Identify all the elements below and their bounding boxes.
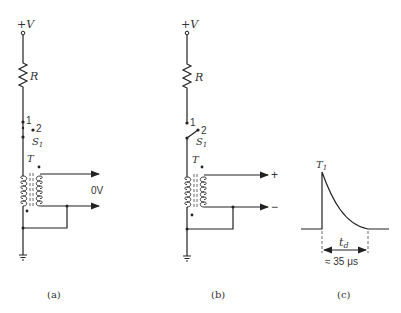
polarity-dot-a <box>38 166 41 169</box>
output-label-a: 0V <box>91 185 104 196</box>
switch-contact-2-a <box>31 128 34 131</box>
transformer-a <box>21 173 43 208</box>
transformer-label-b: T <box>192 154 200 165</box>
output-minus-label-b: − <box>271 200 278 214</box>
switch-pos1-label-b: 1 <box>190 117 196 128</box>
resistor-label-a: R <box>29 70 38 83</box>
supply-label-a: +V <box>17 18 35 31</box>
resistor-b <box>183 35 191 123</box>
panel-a: +V R 1 2 S1 T 0V (a) <box>17 18 104 300</box>
supply-terminal-a <box>21 31 25 35</box>
transformer-b <box>185 174 207 209</box>
caption-a: (a) <box>47 289 61 300</box>
panel-c: T1 td ≈ 35 μs (c) <box>301 159 389 300</box>
resistor-a <box>19 35 27 122</box>
pulse-waveform <box>301 172 389 229</box>
ground-icon-b <box>183 256 191 261</box>
supply-label-b: +V <box>181 18 199 31</box>
switch-pos2-label-a: 2 <box>36 123 42 134</box>
pulse-peak-label: T1 <box>316 159 327 172</box>
switch-label-a: S1 <box>32 136 43 149</box>
transformer-label-a: T <box>27 153 35 164</box>
switch-pos2-label-b: 2 <box>201 125 207 136</box>
switch-label-b: S1 <box>196 136 207 149</box>
duration-label: td <box>339 236 349 250</box>
panel-b: +V R 1 2 S1 T + − (b) <box>181 18 278 300</box>
duration-value: ≈ 35 μs <box>325 256 358 267</box>
switch-pos1-label-a: 1 <box>26 115 32 126</box>
caption-b: (b) <box>211 289 225 300</box>
resistor-label-b: R <box>194 71 203 84</box>
circuit-figure: +V R 1 2 S1 T 0V (a) <box>0 0 401 313</box>
polarity-dot-a2 <box>26 210 29 213</box>
caption-c: (c) <box>337 289 351 300</box>
ground-icon-a <box>19 255 27 260</box>
output-plus-label-b: + <box>271 168 278 182</box>
